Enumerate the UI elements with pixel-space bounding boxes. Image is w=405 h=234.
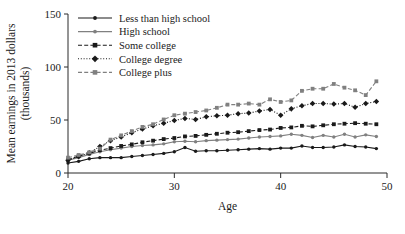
- data-point-marker: [194, 110, 198, 114]
- data-point-marker: [214, 113, 220, 119]
- data-point-marker: [141, 125, 145, 129]
- data-point-marker: [215, 138, 218, 141]
- data-point-marker: [364, 145, 367, 148]
- data-point-marker: [278, 112, 284, 118]
- data-point-marker: [172, 118, 178, 124]
- series-some-college: [66, 121, 378, 161]
- data-point-marker: [300, 124, 304, 128]
- data-point-marker: [162, 137, 166, 141]
- data-point-marker: [311, 136, 314, 139]
- data-point-marker: [109, 156, 112, 159]
- y-tick-label: 150: [45, 8, 62, 20]
- data-point-marker: [215, 106, 219, 110]
- data-point-marker: [375, 135, 378, 138]
- data-point-marker: [290, 146, 293, 149]
- chart-canvas: 05010015020304050AgeMean earnings in 201…: [0, 0, 405, 234]
- data-point-marker: [299, 103, 305, 109]
- data-point-marker: [311, 87, 315, 91]
- data-point-marker: [343, 122, 347, 126]
- series-line: [68, 81, 376, 157]
- legend-item-less-than-high-school[interactable]: Less than high school: [78, 13, 210, 24]
- data-point-marker: [151, 139, 155, 143]
- data-point-marker: [332, 122, 336, 126]
- data-point-marker: [290, 133, 293, 136]
- data-point-marker: [247, 147, 250, 150]
- data-point-marker: [343, 133, 346, 136]
- data-point-marker: [247, 129, 251, 133]
- data-point-marker: [353, 121, 357, 125]
- data-point-marker: [205, 149, 208, 152]
- y-axis-title-line1: Mean earnings in 2013 dollars: [5, 23, 18, 163]
- data-point-marker: [257, 108, 263, 114]
- data-point-marker: [98, 147, 102, 151]
- series-line: [68, 101, 376, 160]
- y-axis-title: Mean earnings in 2013 dollars(thousands): [5, 23, 32, 163]
- data-point-marker: [364, 122, 368, 126]
- data-point-marker: [374, 99, 380, 105]
- data-point-marker: [88, 157, 91, 160]
- data-point-marker: [289, 98, 293, 102]
- data-point-marker: [173, 150, 176, 153]
- data-point-marker: [130, 142, 134, 146]
- legend-label: Less than high school: [119, 13, 210, 24]
- x-tick-label: 30: [169, 180, 181, 192]
- x-axis-title: Age: [218, 200, 237, 213]
- data-point-marker: [226, 138, 229, 141]
- data-point-marker: [215, 149, 218, 152]
- data-point-marker: [151, 153, 154, 156]
- data-point-marker: [268, 135, 271, 138]
- y-tick-label: 0: [56, 167, 62, 179]
- data-point-marker: [225, 112, 231, 118]
- data-point-marker: [109, 138, 113, 142]
- data-point-marker: [162, 152, 165, 155]
- data-point-marker: [183, 140, 186, 143]
- legend-label: College degree: [119, 54, 183, 65]
- data-point-marker: [183, 146, 186, 149]
- data-point-marker: [194, 140, 197, 143]
- data-point-marker: [332, 82, 336, 86]
- data-point-marker: [235, 111, 241, 117]
- data-point-marker: [236, 130, 240, 134]
- data-point-marker: [87, 150, 91, 154]
- data-point-marker: [215, 132, 219, 136]
- legend: Less than high schoolHigh schoolSome col…: [78, 13, 210, 78]
- data-point-marker: [141, 140, 145, 144]
- series-line: [68, 145, 376, 163]
- data-point-marker: [183, 135, 187, 139]
- legend-label: High school: [119, 26, 170, 37]
- data-point-marker: [279, 134, 282, 137]
- data-point-marker: [151, 143, 154, 146]
- data-point-marker: [322, 134, 325, 137]
- data-point-marker: [258, 135, 261, 138]
- data-point-marker: [321, 87, 325, 91]
- data-point-marker: [236, 137, 239, 140]
- legend-item-college-degree[interactable]: College degree: [78, 54, 183, 65]
- data-point-marker: [172, 136, 176, 140]
- data-point-marker: [343, 143, 346, 146]
- data-point-marker: [130, 155, 133, 158]
- legend-item-college-plus[interactable]: College plus: [78, 67, 172, 78]
- data-point-marker: [279, 146, 282, 149]
- data-point-marker: [236, 148, 239, 151]
- data-point-marker: [289, 126, 293, 130]
- data-point-marker: [226, 103, 230, 107]
- data-point-marker: [364, 93, 368, 97]
- x-tick-label: 40: [275, 180, 287, 192]
- data-point-marker: [193, 117, 199, 123]
- legend-item-some-college[interactable]: Some college: [78, 40, 176, 51]
- data-point-marker: [141, 144, 144, 147]
- legend-item-high-school[interactable]: High school: [78, 26, 170, 37]
- data-point-marker: [66, 156, 70, 160]
- data-point-marker: [130, 129, 134, 133]
- data-point-marker: [226, 131, 230, 135]
- data-point-marker: [268, 147, 271, 150]
- legend-label: College plus: [119, 67, 172, 78]
- data-point-marker: [332, 135, 335, 138]
- data-point-marker: [375, 147, 378, 150]
- data-point-marker: [236, 103, 240, 107]
- data-point-marker: [352, 105, 358, 111]
- series-less-than-high-school: [66, 143, 378, 164]
- data-point-marker: [343, 86, 347, 90]
- x-tick-label: 50: [382, 180, 394, 192]
- series-college-degree: [65, 99, 379, 163]
